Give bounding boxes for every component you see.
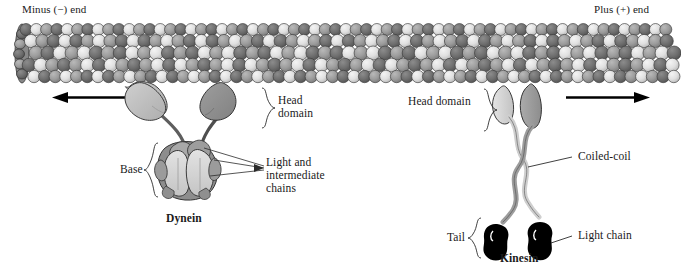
kinesin-coiled-coil — [503, 117, 539, 222]
dynein-head-left — [125, 82, 167, 121]
dynein-name-label: Dynein — [166, 212, 202, 225]
microtubule-lattice — [20, 24, 681, 83]
kinesin-light-chain-label: Light chain — [578, 229, 632, 242]
kinesin-head-domain-label: Head domain — [408, 95, 471, 108]
dynein-chains-label-line3: chains — [266, 182, 296, 195]
dynein-chains-label-line1: Light and — [266, 156, 311, 169]
kinesin-coiled-coil-label: Coiled-coil — [578, 150, 631, 163]
minus-end-label: Minus (−) end — [22, 3, 86, 16]
dynein-base — [155, 140, 221, 200]
kinesin-tail-label: Tail — [447, 231, 465, 244]
dynein-molecule — [125, 82, 275, 200]
plus-end-label: Plus (+) end — [594, 3, 649, 16]
kinesin-coiledcoil-leader — [528, 157, 572, 167]
diagram-canvas: Minus (−) end Plus (+) end Head domain B… — [0, 0, 681, 270]
dynein-head-domain-label-line2: domain — [278, 107, 313, 120]
dynein-head-right — [200, 83, 236, 121]
dynein-chains-label-line2: intermediate — [266, 169, 325, 182]
dynein-head-brace — [262, 88, 275, 128]
plus-direction-arrow — [566, 92, 650, 103]
dynein-base-label: Base — [120, 163, 143, 176]
kinesin-tail-brace — [468, 218, 481, 258]
kinesin-name-label: Kinesin — [500, 252, 538, 265]
kinesin-molecule — [468, 84, 572, 261]
microtubule — [14, 24, 681, 84]
kinesin-lightchain-leader — [551, 236, 572, 243]
kinesin-head-right — [520, 84, 541, 128]
minus-direction-arrow — [52, 92, 136, 103]
dynein-head-domain-label-line1: Head — [278, 94, 303, 107]
